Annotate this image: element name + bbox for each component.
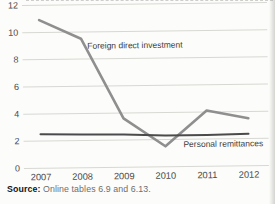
chart-plot-group: 024681012200720082009201020112012Foreign… [8, 0, 269, 183]
line-chart: 024681012200720082009201020112012Foreign… [0, 0, 275, 184]
gridline [23, 84, 268, 87]
gridline [23, 111, 268, 114]
source-note: Source: Online tables 6.9 and 6.13. [7, 184, 151, 194]
foreign-direct-investment-line [39, 18, 249, 148]
y-tick-label: 10 [8, 28, 18, 38]
source-text: Online tables 6.9 and 6.13. [43, 184, 151, 194]
fdi-remittances-chart-figure: 024681012200720082009201020112012Foreign… [0, 0, 275, 204]
y-tick-label: 4 [14, 109, 19, 119]
x-tick-label: 2011 [197, 170, 217, 180]
y-tick-label: 2 [15, 136, 20, 146]
scanned-page: 024681012200720082009201020112012Foreign… [0, 0, 275, 204]
y-tick-label: 8 [14, 55, 19, 65]
x-tick-label: 2009 [114, 171, 135, 181]
series-label: Foreign direct investment [87, 40, 183, 51]
x-tick-label: 2008 [72, 172, 93, 182]
gridline [22, 2, 267, 5]
source-label: Source: [7, 184, 40, 194]
gridline [23, 57, 268, 60]
y-tick-label: 0 [15, 163, 20, 173]
gridline [24, 165, 269, 168]
x-tick-label: 2007 [31, 172, 52, 182]
y-tick-label: 12 [8, 0, 18, 10]
x-tick-label: 2012 [239, 170, 260, 180]
series-label: Personal remittances [183, 138, 263, 149]
x-tick-label: 2010 [155, 171, 176, 181]
page-edge-shadow [269, 0, 275, 204]
y-tick-label: 6 [14, 82, 19, 92]
